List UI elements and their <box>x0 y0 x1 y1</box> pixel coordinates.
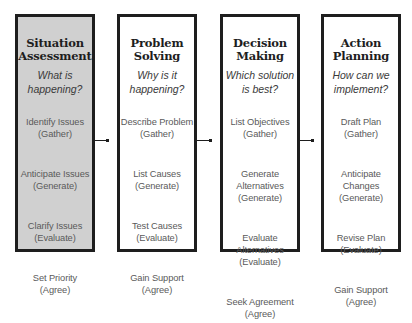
step-action: Test Causes <box>132 221 182 231</box>
step-phase: (Generate) <box>120 180 194 192</box>
stage-title: Problem Solving <box>120 37 194 63</box>
step-item: Gain Support (Agree) <box>324 272 398 320</box>
step-item: Set Priority (Agree) <box>18 260 92 308</box>
step-item: Seek Agreement (Agree) <box>223 284 297 323</box>
stage-question: How can we implement? <box>324 68 398 96</box>
stage-box-action-planning: Action Planning How can we implement? Dr… <box>321 14 401 252</box>
step-action: Anticipate Changes <box>341 169 381 191</box>
step-action: Revise Plan <box>337 233 386 243</box>
step-action: Clarify Issues <box>28 221 82 231</box>
step-item: Draft Plan (Gather) <box>324 104 398 152</box>
step-item: Gain Support (Agree) <box>120 260 194 308</box>
step-list: Describe Problem (Gather) List Causes (G… <box>120 104 194 308</box>
stage-question: Why is it happening? <box>120 68 194 96</box>
step-action: Anticipate Issues <box>21 169 90 179</box>
step-action: Gain Support <box>334 285 388 295</box>
step-phase: (Generate) <box>324 192 398 204</box>
step-action: Identify Issues <box>26 117 84 127</box>
step-phase: (Generate) <box>18 180 92 192</box>
step-phase: (Gather) <box>223 128 297 140</box>
step-phase: (Gather) <box>120 128 194 140</box>
step-item: Anticipate Changes (Generate) <box>324 156 398 216</box>
stage-question: What is happening? <box>18 68 92 96</box>
step-phase: (Evaluate) <box>223 256 297 268</box>
arrow-right-icon <box>93 140 107 141</box>
arrow-right-icon <box>196 140 210 141</box>
step-action: List Objectives <box>231 117 290 127</box>
step-item: Describe Problem (Gather) <box>120 104 194 152</box>
step-phase: (Evaluate) <box>18 232 92 244</box>
step-item: List Objectives (Gather) <box>223 104 297 152</box>
step-phase: (Evaluate) <box>120 232 194 244</box>
step-item: Revise Plan (Evaluate) <box>324 220 398 268</box>
step-item: Evaluate Alternatives (Evaluate) <box>223 220 297 280</box>
arrow-right-icon <box>298 140 312 141</box>
stage-box-situation-assessment: Situation Assessment What is happening? … <box>15 14 95 252</box>
step-phase: (Agree) <box>324 296 398 308</box>
step-action: List Causes <box>133 169 180 179</box>
step-item: Generate Alternatives (Generate) <box>223 156 297 216</box>
step-action: Draft Plan <box>341 117 381 127</box>
stage-question: Which solution is best? <box>223 68 297 96</box>
step-phase: (Evaluate) <box>324 244 398 256</box>
stage-title: Decision Making <box>223 37 297 63</box>
step-list: Draft Plan (Gather) Anticipate Changes (… <box>324 104 398 320</box>
step-phase: (Generate) <box>223 192 297 204</box>
step-action: Gain Support <box>130 273 184 283</box>
stage-title: Action Planning <box>324 37 398 63</box>
step-list: Identify Issues (Gather) Anticipate Issu… <box>18 104 92 308</box>
stage-box-problem-solving: Problem Solving Why is it happening? Des… <box>117 14 197 252</box>
step-action: Set Priority <box>33 273 77 283</box>
step-item: Identify Issues (Gather) <box>18 104 92 152</box>
stage-box-decision-making: Decision Making Which solution is best? … <box>220 14 300 252</box>
stage-title: Situation Assessment <box>18 37 92 63</box>
step-action: Seek Agreement <box>226 297 293 307</box>
step-item: Clarify Issues (Evaluate) <box>18 208 92 256</box>
step-action: Evaluate Alternatives <box>236 233 283 255</box>
step-phase: (Agree) <box>223 308 297 320</box>
step-action: Generate Alternatives <box>236 169 283 191</box>
step-item: Anticipate Issues (Generate) <box>18 156 92 204</box>
step-item: Test Causes (Evaluate) <box>120 208 194 256</box>
step-item: List Causes (Generate) <box>120 156 194 204</box>
step-list: List Objectives (Gather) Generate Altern… <box>223 104 297 323</box>
step-phase: (Gather) <box>18 128 92 140</box>
step-phase: (Agree) <box>120 284 194 296</box>
step-phase: (Gather) <box>324 128 398 140</box>
step-action: Describe Problem <box>121 117 193 127</box>
step-phase: (Agree) <box>18 284 92 296</box>
